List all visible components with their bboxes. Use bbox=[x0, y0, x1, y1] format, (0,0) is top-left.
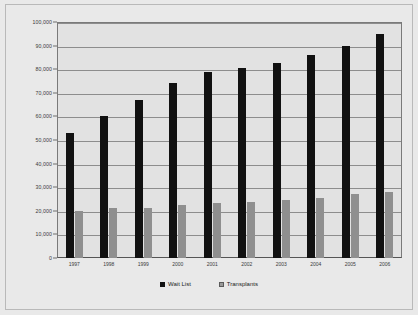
y-axis-tick-label: 20,000 bbox=[36, 208, 52, 214]
bar-group bbox=[126, 22, 161, 258]
bar-transplants bbox=[178, 205, 186, 258]
legend-label: Wait List bbox=[168, 281, 191, 287]
bar-wait-list bbox=[204, 72, 212, 258]
x-axis-tick-label: 2001 bbox=[195, 261, 230, 273]
x-axis-tick-label: 1997 bbox=[57, 261, 92, 273]
bar-wait-list bbox=[342, 46, 350, 258]
plot-wrapper bbox=[57, 22, 402, 258]
chart-figure: 100,00090,00080,00070,00060,00050,00040,… bbox=[0, 0, 418, 315]
bar-transplants bbox=[385, 192, 393, 258]
bar-transplants bbox=[316, 198, 324, 258]
bar-transplants bbox=[213, 203, 221, 258]
chart-legend: Wait ListTransplants bbox=[0, 281, 418, 287]
bar-group bbox=[92, 22, 127, 258]
x-axis: 1997199819992000200120022003200420052006 bbox=[57, 261, 402, 273]
x-axis-tick-label: 1998 bbox=[92, 261, 127, 273]
y-axis-tick-label: 60,000 bbox=[36, 113, 52, 119]
bar-transplants bbox=[109, 208, 117, 258]
y-axis-tick-label: 80,000 bbox=[36, 66, 52, 72]
y-axis: 100,00090,00080,00070,00060,00050,00040,… bbox=[0, 0, 57, 259]
legend-swatch-transplants-icon bbox=[219, 282, 224, 287]
bars-layer bbox=[57, 22, 402, 258]
y-axis-tick-label: 10,000 bbox=[36, 231, 52, 237]
bar-group bbox=[230, 22, 265, 258]
bar-group bbox=[264, 22, 299, 258]
legend-item[interactable]: Transplants bbox=[219, 281, 258, 287]
bar-wait-list bbox=[238, 68, 246, 258]
x-axis-tick-label: 2004 bbox=[299, 261, 334, 273]
x-axis-tick-label: 2006 bbox=[368, 261, 403, 273]
bar-group bbox=[368, 22, 403, 258]
bar-wait-list bbox=[376, 34, 384, 258]
bar-group bbox=[57, 22, 92, 258]
legend-swatch-wait-list-icon bbox=[160, 282, 165, 287]
bar-wait-list bbox=[66, 133, 74, 258]
bar-group bbox=[299, 22, 334, 258]
y-axis-tick-label: 0 bbox=[49, 255, 52, 261]
y-axis-tick-label: 90,000 bbox=[36, 43, 52, 49]
y-axis-tick-label: 100,000 bbox=[33, 19, 52, 25]
y-axis-tick-label: 50,000 bbox=[36, 137, 52, 143]
x-axis-tick-label: 1999 bbox=[126, 261, 161, 273]
y-axis-tick-label: 70,000 bbox=[36, 90, 52, 96]
bar-wait-list bbox=[307, 55, 315, 258]
legend-label: Transplants bbox=[227, 281, 258, 287]
bar-group bbox=[195, 22, 230, 258]
x-axis-tick-label: 2005 bbox=[333, 261, 368, 273]
bar-transplants bbox=[282, 200, 290, 258]
bar-wait-list bbox=[273, 63, 281, 258]
bar-transplants bbox=[75, 211, 83, 258]
bar-transplants bbox=[144, 208, 152, 258]
bar-wait-list bbox=[135, 100, 143, 258]
y-axis-tick-label: 40,000 bbox=[36, 161, 52, 167]
x-axis-tick-label: 2002 bbox=[230, 261, 265, 273]
bar-transplants bbox=[247, 202, 255, 258]
bar-group bbox=[333, 22, 368, 258]
legend-item[interactable]: Wait List bbox=[160, 281, 191, 287]
bar-wait-list bbox=[100, 116, 108, 258]
bar-transplants bbox=[351, 194, 359, 258]
bar-group bbox=[161, 22, 196, 258]
x-axis-tick-label: 2000 bbox=[161, 261, 196, 273]
bar-wait-list bbox=[169, 83, 177, 258]
x-axis-tick-label: 2003 bbox=[264, 261, 299, 273]
y-axis-tick-label: 30,000 bbox=[36, 184, 52, 190]
